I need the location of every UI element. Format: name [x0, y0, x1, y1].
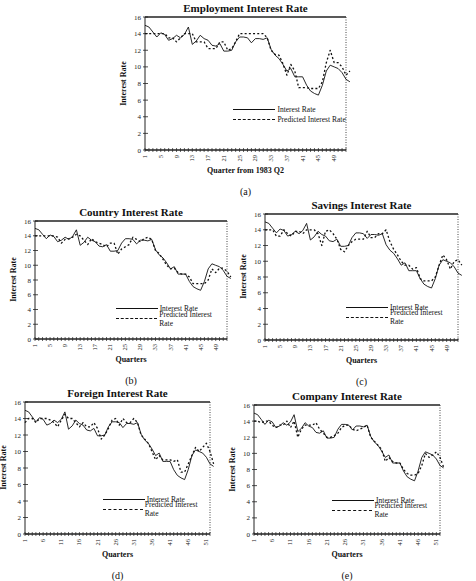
svg-text:45: 45: [314, 155, 321, 162]
x-axis-label: Quarters: [25, 550, 210, 559]
svg-text:46: 46: [184, 538, 191, 545]
svg-text:21: 21: [94, 539, 101, 546]
svg-text:4: 4: [28, 306, 32, 314]
svg-text:6: 6: [258, 289, 262, 297]
svg-text:4: 4: [258, 305, 262, 313]
y-axis-label: Interest Rate: [239, 237, 248, 317]
figure-caption: (b): [35, 375, 227, 386]
svg-text:8: 8: [28, 277, 32, 285]
svg-text:14: 14: [243, 418, 251, 426]
svg-text:1: 1: [261, 345, 268, 348]
svg-text:12: 12: [24, 247, 32, 255]
svg-text:14: 14: [14, 415, 22, 423]
svg-text:8: 8: [18, 465, 22, 473]
solid-line-swatch-icon: [332, 500, 374, 501]
legend: Interest Rate Predicted Interest Rate: [103, 494, 210, 514]
svg-text:10: 10: [14, 448, 22, 456]
svg-text:8: 8: [138, 80, 142, 88]
svg-text:11: 11: [57, 539, 64, 545]
svg-text:16: 16: [14, 399, 22, 407]
svg-text:49: 49: [330, 155, 337, 162]
chart-title: Employment Interest Rate: [145, 2, 346, 14]
chart-panel-savings: Savings Interest Rate 024681012141615913…: [265, 214, 458, 340]
svg-text:12: 12: [243, 434, 251, 442]
svg-text:4: 4: [247, 498, 251, 506]
svg-text:9: 9: [173, 155, 180, 158]
plot-area: 024681012141615913172125293337414549: [145, 17, 346, 150]
svg-text:5: 5: [46, 344, 53, 347]
svg-text:14: 14: [24, 232, 32, 240]
figure-caption: (e): [254, 570, 440, 581]
svg-text:25: 25: [121, 344, 128, 351]
svg-text:16: 16: [75, 538, 82, 545]
legend-item-predicted: Predicted Interest Rate: [346, 312, 458, 322]
svg-text:0: 0: [18, 531, 22, 539]
svg-text:33: 33: [267, 155, 274, 162]
svg-text:12: 12: [14, 432, 22, 440]
svg-text:41: 41: [396, 539, 403, 546]
svg-text:1: 1: [250, 539, 257, 542]
svg-text:51: 51: [432, 539, 439, 546]
svg-text:26: 26: [341, 538, 348, 545]
svg-text:33: 33: [151, 344, 158, 351]
svg-text:37: 37: [397, 344, 404, 351]
x-axis-label: Quarters: [265, 356, 458, 365]
svg-text:1: 1: [141, 155, 148, 158]
svg-text:13: 13: [76, 344, 83, 351]
y-axis-label: Interest Rate: [119, 43, 128, 123]
svg-text:21: 21: [106, 344, 113, 351]
svg-text:0: 0: [138, 147, 142, 155]
figure-caption: (d): [25, 570, 210, 581]
svg-text:45: 45: [197, 344, 204, 351]
svg-text:2: 2: [247, 514, 251, 522]
svg-text:21: 21: [337, 345, 344, 352]
svg-text:2: 2: [138, 130, 142, 138]
chart-title: Company Interest Rate: [254, 390, 440, 402]
svg-text:1: 1: [21, 539, 28, 542]
svg-text:17: 17: [204, 154, 211, 161]
chart-title: Foreign Interest Rate: [25, 387, 210, 399]
svg-text:31: 31: [130, 539, 137, 546]
svg-text:4: 4: [18, 498, 22, 506]
svg-text:11: 11: [286, 539, 293, 545]
svg-text:17: 17: [322, 344, 329, 351]
svg-text:16: 16: [24, 218, 32, 226]
dashed-line-swatch-icon: [103, 509, 143, 510]
legend: Interest Rate Predicted Interest Rate: [346, 302, 458, 322]
svg-text:21: 21: [220, 155, 227, 162]
svg-text:0: 0: [258, 337, 262, 345]
svg-text:13: 13: [188, 155, 195, 162]
svg-text:6: 6: [18, 481, 22, 489]
chart-panel-foreign: Foreign Interest Rate 024681012141616111…: [25, 402, 210, 534]
y-axis-label: Interest Rate: [228, 429, 237, 509]
svg-text:14: 14: [254, 226, 262, 234]
x-axis-label: Quarter from 1983 Q2: [145, 166, 346, 175]
x-axis-label: Quarters: [35, 355, 227, 364]
svg-text:9: 9: [61, 344, 68, 347]
legend: Interest Rate Predicted Interest Rate: [116, 304, 227, 324]
svg-text:5: 5: [276, 345, 283, 348]
svg-text:29: 29: [251, 155, 258, 162]
svg-text:29: 29: [367, 345, 374, 352]
chart-title: Savings Interest Rate: [265, 199, 458, 211]
svg-text:5: 5: [157, 155, 164, 158]
svg-text:0: 0: [247, 531, 251, 539]
legend-item-predicted: Predicted Interest Rate: [116, 314, 227, 324]
svg-text:8: 8: [258, 274, 262, 282]
y-axis-label: Interest Rate: [9, 240, 18, 320]
svg-text:16: 16: [254, 211, 262, 219]
svg-text:6: 6: [247, 482, 251, 490]
svg-text:6: 6: [138, 97, 142, 105]
svg-text:10: 10: [134, 63, 142, 71]
legend-item-predicted: Predicted Interest Rate: [332, 505, 440, 515]
svg-text:0: 0: [28, 336, 32, 344]
svg-text:6: 6: [268, 538, 275, 542]
svg-text:49: 49: [443, 345, 450, 352]
svg-text:10: 10: [254, 258, 262, 266]
svg-text:9: 9: [291, 345, 298, 348]
legend: Interest Rate Predicted Interest Rate: [332, 495, 440, 515]
svg-text:8: 8: [247, 466, 251, 474]
svg-text:37: 37: [283, 154, 290, 161]
chart-panel-employment: Employment Interest Rate 024681012141615…: [145, 17, 346, 150]
svg-text:17: 17: [91, 343, 98, 350]
